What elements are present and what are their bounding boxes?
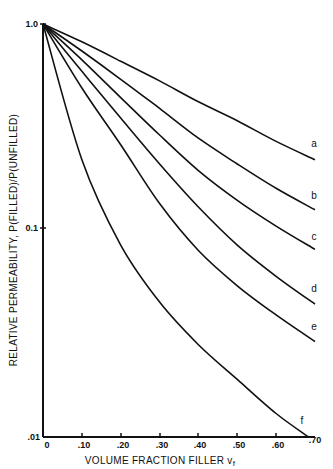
x-tick-label: 0	[44, 440, 49, 450]
curve-b	[43, 24, 315, 210]
y-tick-label-0.1: 0.1	[25, 223, 38, 233]
x-tick-label: .30	[156, 440, 169, 450]
x-tick-label: .10	[78, 440, 91, 450]
x-tick-label: .40	[194, 440, 207, 450]
curve-f	[43, 24, 309, 437]
curve-label-a: a	[311, 138, 317, 149]
curve-label-c: c	[312, 231, 317, 242]
x-axis-title: VOLUME FRACTION FILLER vf	[85, 455, 236, 468]
x-tick-label: .70	[309, 435, 322, 445]
curve-c	[43, 24, 315, 249]
x-tick-label: .20	[117, 440, 130, 450]
y-tick-label-0.01: .01	[27, 432, 40, 442]
x-tick-label: .60	[272, 440, 285, 450]
curve-label-e: e	[311, 321, 317, 332]
curve-label-d: d	[311, 283, 317, 294]
y-tick-label-1: 1.0	[25, 19, 38, 29]
curve-label-f: f	[301, 415, 304, 426]
y-axis-title: RELATIVE PERMEABILITY, P(FILLED)/P(UNFIL…	[8, 114, 19, 366]
curve-e	[43, 24, 315, 342]
permeability-chart: 1.0 0.1 .01 0 .10 .20 .30 .40 .50 .60 .7…	[0, 0, 333, 469]
x-tick-label: .50	[233, 440, 246, 450]
curves	[43, 24, 315, 437]
curve-label-b: b	[311, 190, 317, 201]
